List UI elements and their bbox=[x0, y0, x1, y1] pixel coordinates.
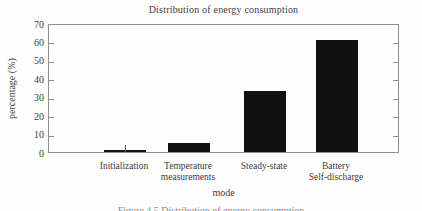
y-tick-mark-right-30 bbox=[393, 99, 398, 100]
y-tick-mark-right-40 bbox=[393, 80, 398, 81]
x-axis-label: mode bbox=[48, 187, 399, 198]
y-tick-mark-left-50 bbox=[49, 62, 54, 63]
chart-title: Distribution of energy consumption bbox=[48, 4, 399, 15]
y-tick-mark-right-60 bbox=[393, 43, 398, 44]
y-tick-mark-right-50 bbox=[393, 62, 398, 63]
y-tick-mark-left-60 bbox=[49, 43, 54, 44]
y-tick-mark-right-20 bbox=[393, 117, 398, 118]
y-tick-label-10: 10 bbox=[18, 129, 44, 140]
y-tick-mark-left-30 bbox=[49, 99, 54, 100]
y-tick-label-20: 20 bbox=[18, 111, 44, 122]
y-tick-mark-left-20 bbox=[49, 117, 54, 118]
y-tick-label-40: 40 bbox=[18, 74, 44, 85]
y-tick-label-0: 0 bbox=[18, 148, 44, 159]
bar-battery-self-discharge bbox=[316, 40, 358, 152]
y-tick-label-50: 50 bbox=[18, 55, 44, 66]
y-tick-mark-left-40 bbox=[49, 80, 54, 81]
y-tick-mark-left-10 bbox=[49, 136, 54, 137]
y-tick-label-70: 70 bbox=[18, 19, 44, 30]
y-tick-mark-right-10 bbox=[393, 136, 398, 137]
y-tick-label-30: 30 bbox=[18, 92, 44, 103]
bar-steady-state bbox=[244, 91, 286, 152]
y-tick-label-60: 60 bbox=[18, 37, 44, 48]
scan-artifact-mark bbox=[125, 145, 126, 152]
figure-caption-clipped: Figure 4.5 Distribution of energy consum… bbox=[0, 205, 422, 211]
scanned-paper-figure: Distribution of energy consumption perce… bbox=[0, 0, 422, 211]
y-axis-label: percentage (%) bbox=[4, 24, 18, 153]
x-tick-label-battery-self-discharge: BatterySelf-discharge bbox=[288, 161, 384, 183]
plot-area bbox=[48, 24, 399, 153]
bar-temperature-measurements bbox=[168, 143, 210, 152]
